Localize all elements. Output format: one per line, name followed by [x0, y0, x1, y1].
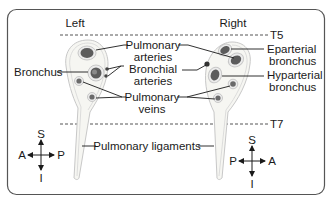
left-compass-inferior: I	[39, 172, 42, 184]
left-compass-posterior: P	[57, 149, 65, 161]
eparterial-bronchus-label-line1: Eparterial	[267, 43, 316, 55]
right-pulmonary-vein-1-lumen	[230, 81, 236, 87]
pulmonary-veins-label-line2: veins	[139, 103, 166, 115]
eparterial-bronchus-label-line2: bronchus	[269, 55, 317, 67]
left-pulmonary-artery-lumen	[81, 48, 94, 58]
right-compass-inferior: I	[250, 178, 253, 190]
pulmonary-arteries-label-line2: arteries	[134, 51, 173, 63]
bronchial-arteries-label-line2: arteries	[134, 75, 173, 87]
left-pulmonary-vein-2-lumen	[89, 94, 94, 99]
t7-label: T7	[270, 118, 283, 130]
bronchus-label: Bronchus	[14, 66, 63, 78]
left-pulmonary-vein-1-lumen	[76, 78, 81, 83]
right-compass-superior: S	[248, 134, 256, 146]
left-compass-superior: S	[37, 128, 45, 140]
left-bronchial-artery-2	[104, 74, 108, 78]
left-bronchus-highlight	[92, 70, 97, 75]
hyparterial-bronchus-label-line1: Hyparterial	[267, 69, 323, 81]
right-compass-anterior: A	[268, 155, 276, 167]
hyparterial-bronchus-label-line2: bronchus	[269, 81, 317, 93]
left-compass-anterior: A	[18, 149, 26, 161]
bronchial-arteries-label-line1: Bronchial	[129, 63, 177, 75]
t5-label: T5	[270, 29, 283, 41]
pulmonary-veins-label-line1: Pulmonary	[125, 91, 180, 103]
pulmonary-ligaments-label: Pulmonary ligaments	[93, 140, 201, 152]
right-compass-posterior: P	[229, 155, 237, 167]
pulmonary-arteries-label-line1: Pulmonary	[126, 39, 181, 51]
right-pulmonary-vein-2-lumen	[215, 95, 220, 100]
right-side-label: Right	[220, 17, 248, 29]
pulmonary-hilum-diagram: Left Right T5 T7	[0, 0, 331, 199]
left-side-label: Left	[65, 17, 85, 29]
